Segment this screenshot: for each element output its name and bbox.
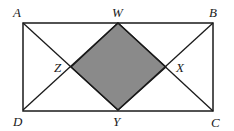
label-b: B: [209, 5, 217, 20]
shaded-quadrilateral-wxyz: [71, 23, 166, 110]
label-c: C: [211, 115, 220, 130]
label-x: X: [175, 60, 185, 75]
label-y: Y: [113, 114, 122, 129]
geometry-diagram: A W B Z X D Y C: [0, 0, 234, 131]
label-d: D: [12, 114, 23, 129]
label-w: W: [112, 5, 124, 20]
label-z: Z: [54, 60, 62, 75]
label-a: A: [12, 5, 21, 20]
